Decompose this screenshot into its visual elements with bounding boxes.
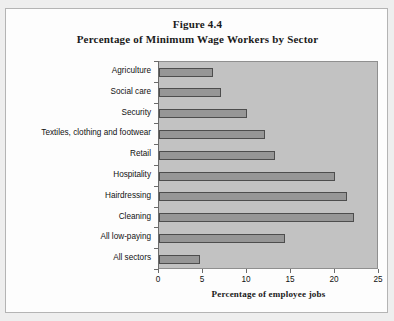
category-label: Cleaning: [6, 212, 151, 222]
figure-panel: Figure 4.4 Percentage of Minimum Wage Wo…: [5, 8, 388, 313]
bar: [159, 172, 335, 181]
x-axis-tick-label: 0: [143, 275, 173, 284]
x-axis-tick-label: 10: [231, 275, 261, 284]
category-label: Textiles, clothing and footwear: [6, 128, 151, 138]
x-axis-tick: [378, 269, 379, 273]
bar-row: [159, 166, 377, 187]
figure-canvas: Figure 4.4 Percentage of Minimum Wage Wo…: [0, 0, 394, 321]
y-axis-tick: [154, 123, 158, 124]
x-axis-tick: [158, 269, 159, 273]
category-label: All sectors: [6, 253, 151, 263]
y-axis-line: [158, 61, 159, 270]
x-axis-tick-label: 20: [319, 275, 349, 284]
category-label: Security: [6, 108, 151, 118]
figure-title-line-1: Figure 4.4: [6, 17, 389, 32]
y-axis-tick: [154, 227, 158, 228]
bar: [159, 68, 213, 77]
plot-area: [158, 61, 378, 269]
x-axis-tick: [202, 269, 203, 273]
figure-title: Figure 4.4 Percentage of Minimum Wage Wo…: [6, 17, 389, 47]
bar: [159, 255, 200, 264]
bar: [159, 130, 265, 139]
category-label: Hairdressing: [6, 191, 151, 201]
x-axis-tick: [246, 269, 247, 273]
y-axis-tick: [154, 144, 158, 145]
x-axis-tick: [290, 269, 291, 273]
x-axis-tick: [334, 269, 335, 273]
figure-title-line-2: Percentage of Minimum Wage Workers by Se…: [6, 32, 389, 47]
y-axis-tick: [154, 186, 158, 187]
y-axis-tick: [154, 61, 158, 62]
bar: [159, 109, 247, 118]
bar: [159, 234, 285, 243]
category-label: Social care: [6, 87, 151, 97]
bar-row: [159, 249, 377, 270]
bar-row: [159, 208, 377, 229]
x-axis-title: Percentage of employee jobs: [158, 289, 379, 299]
x-axis-tick-label: 5: [187, 275, 217, 284]
x-axis-tick-label: 25: [363, 275, 393, 284]
bar: [159, 192, 347, 201]
y-axis-tick: [154, 248, 158, 249]
y-axis-tick: [154, 82, 158, 83]
bar-row: [159, 62, 377, 83]
x-axis-tick-label: 15: [275, 275, 305, 284]
bar-row: [159, 145, 377, 166]
y-axis-tick: [154, 103, 158, 104]
category-label: Hospitality: [6, 170, 151, 180]
bar-row: [159, 228, 377, 249]
bar: [159, 213, 354, 222]
bar-row: [159, 83, 377, 104]
bar: [159, 151, 275, 160]
bar: [159, 88, 221, 97]
y-axis-tick: [154, 207, 158, 208]
bar-row: [159, 124, 377, 145]
category-label: Agriculture: [6, 66, 151, 76]
bars-layer: [159, 62, 377, 268]
bar-row: [159, 104, 377, 125]
y-axis-tick: [154, 165, 158, 166]
category-label: All low-paying: [6, 232, 151, 242]
bar-row: [159, 187, 377, 208]
category-label: Retail: [6, 149, 151, 159]
